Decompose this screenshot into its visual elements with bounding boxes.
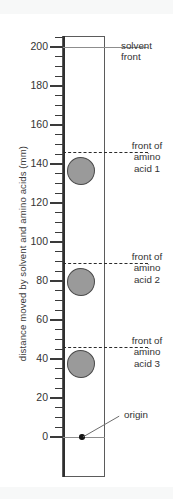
amino-acid-3-label-line1: front of <box>121 335 173 346</box>
y-axis-tick-label: 140 <box>1 158 48 168</box>
amino-acid-2-spot <box>67 268 95 296</box>
y-axis-minor-tick <box>55 427 64 428</box>
y-axis-minor-tick <box>55 407 64 408</box>
y-axis-minor-tick <box>55 66 64 67</box>
y-axis-minor-tick <box>55 154 64 155</box>
y-axis-minor-tick <box>55 339 64 340</box>
y-axis-minor-tick <box>55 105 64 106</box>
amino-acid-3-label: front of amino acid 3 <box>121 335 173 369</box>
y-axis-minor-tick <box>55 271 64 272</box>
amino-acid-1-spot <box>67 157 95 185</box>
chromatography-plate <box>62 36 105 477</box>
y-axis-major-tick <box>50 163 64 164</box>
y-axis-tick-label: 80 <box>1 275 48 285</box>
origin-leader-line <box>83 415 121 439</box>
y-axis-tick-label: 160 <box>1 119 48 129</box>
y-axis-major-tick <box>50 241 64 242</box>
y-axis-tick-label: 180 <box>1 80 48 90</box>
y-axis-tick-label: 120 <box>1 197 48 207</box>
amino-acid-1-label-line2: amino <box>121 151 173 162</box>
y-axis-minor-tick <box>55 173 64 174</box>
y-axis-tick-label: 100 <box>1 236 48 246</box>
y-axis-tick-label: 20 <box>1 392 48 402</box>
solvent-front-label-line2: front <box>121 51 173 62</box>
y-axis-minor-tick <box>55 212 64 213</box>
y-axis-minor-tick <box>55 368 64 369</box>
y-axis-minor-tick <box>55 76 64 77</box>
y-axis-minor-tick <box>55 222 64 223</box>
y-axis-line <box>63 36 65 477</box>
amino-acid-1-label-line1: front of <box>121 140 173 151</box>
bottom-margin-band <box>0 487 173 499</box>
y-axis-major-tick <box>50 202 64 203</box>
y-axis-major-tick <box>50 358 64 359</box>
origin-label-text: origin <box>124 409 173 420</box>
y-axis-major-tick <box>50 397 64 398</box>
y-axis-minor-tick <box>55 183 64 184</box>
y-axis-major-tick <box>50 46 64 47</box>
y-axis-tick-label: 60 <box>1 314 48 324</box>
amino-acid-1-label-line3: acid 1 <box>121 163 173 174</box>
y-axis-minor-tick <box>55 290 64 291</box>
y-axis-minor-tick <box>55 300 64 301</box>
amino-acid-2-label: front of amino acid 2 <box>121 251 173 285</box>
y-axis-minor-tick <box>55 261 64 262</box>
y-axis-minor-tick <box>55 310 64 311</box>
y-axis-tick-label: 200 <box>1 41 48 51</box>
amino-acid-1-label: front of amino acid 1 <box>121 140 173 174</box>
y-axis-minor-tick <box>55 349 64 350</box>
y-axis-minor-tick <box>55 193 64 194</box>
top-margin-band <box>0 0 173 14</box>
y-axis-minor-tick <box>55 388 64 389</box>
amino-acid-3-label-line2: amino <box>121 346 173 357</box>
amino-acid-2-label-line1: front of <box>121 251 173 262</box>
y-axis-minor-tick <box>55 56 64 57</box>
y-axis-major-tick <box>50 124 64 125</box>
chromatography-figure: distance moved by solvent and amino acid… <box>0 0 173 499</box>
amino-acid-3-label-line3: acid 3 <box>121 358 173 369</box>
origin-label: origin <box>124 409 173 420</box>
y-axis-minor-tick <box>55 232 64 233</box>
solvent-front-label-line1: solvent <box>121 40 173 51</box>
amino-acid-2-label-line2: amino <box>121 262 173 273</box>
y-axis-minor-tick <box>55 144 64 145</box>
y-axis-minor-tick <box>55 95 64 96</box>
y-axis-major-tick <box>50 85 64 86</box>
y-axis-tick-label: 0 <box>1 431 48 441</box>
y-axis-minor-tick <box>55 37 64 38</box>
y-axis-minor-tick <box>55 378 64 379</box>
y-axis-minor-tick <box>55 329 64 330</box>
y-axis-minor-tick <box>55 134 64 135</box>
y-axis-major-tick <box>50 436 64 437</box>
amino-acid-3-spot <box>67 350 95 378</box>
y-axis-minor-tick <box>55 251 64 252</box>
y-axis-major-tick <box>50 319 64 320</box>
y-axis-minor-tick <box>55 417 64 418</box>
amino-acid-2-label-line3: acid 2 <box>121 274 173 285</box>
y-axis-minor-tick <box>55 115 64 116</box>
solvent-front-label: solvent front <box>121 40 173 63</box>
y-axis-tick-label: 40 <box>1 353 48 363</box>
y-axis-major-tick <box>50 280 64 281</box>
